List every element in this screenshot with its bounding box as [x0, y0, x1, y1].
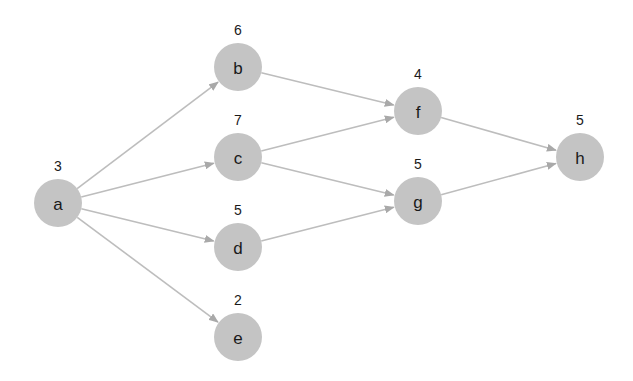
edge-f-h: [441, 118, 556, 151]
node-f[interactable]: 4f: [394, 66, 442, 135]
node-label: a: [53, 195, 63, 214]
node-weight: 6: [234, 22, 242, 38]
node-b[interactable]: 6b: [214, 22, 262, 91]
node-weight: 4: [414, 66, 422, 82]
edge-d-g: [261, 207, 394, 241]
node-a[interactable]: 3a: [34, 158, 82, 227]
edge-c-g: [261, 163, 393, 195]
edge-b-f: [261, 73, 393, 105]
edge-a-c: [81, 163, 214, 197]
edge-g-h: [441, 164, 556, 195]
node-g[interactable]: 5g: [394, 156, 442, 225]
node-weight: 2: [234, 292, 242, 308]
node-weight: 5: [234, 202, 242, 218]
edge-c-f: [261, 117, 394, 151]
node-weight: 3: [54, 158, 62, 174]
node-label: d: [233, 239, 242, 258]
node-weight: 5: [414, 156, 422, 172]
node-d[interactable]: 5d: [214, 202, 262, 271]
node-label: b: [233, 59, 242, 78]
node-c[interactable]: 7c: [214, 112, 262, 181]
edges-layer: [77, 73, 556, 322]
node-label: e: [233, 329, 242, 348]
nodes-layer: 3a6b7c5d2e4f5g5h: [34, 22, 604, 361]
node-label: h: [575, 149, 584, 168]
node-weight: 7: [234, 112, 242, 128]
edge-a-e: [77, 217, 218, 322]
edge-a-d: [81, 209, 213, 241]
node-weight: 5: [576, 112, 584, 128]
graph-canvas: 3a6b7c5d2e4f5g5h: [0, 0, 633, 381]
node-e[interactable]: 2e: [214, 292, 262, 361]
node-label: f: [416, 103, 421, 122]
node-h[interactable]: 5h: [556, 112, 604, 181]
node-label: c: [234, 149, 243, 168]
edge-a-b: [77, 82, 218, 188]
node-label: g: [413, 193, 422, 212]
